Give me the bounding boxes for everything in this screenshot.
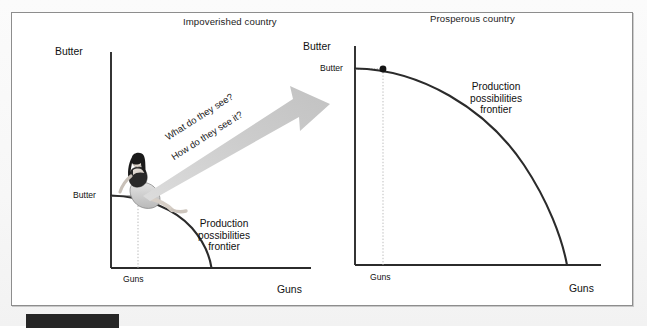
ppf-caption-line-3: frontier <box>198 241 250 253</box>
bottom-tab-strip <box>26 314 119 328</box>
x-axis-title-impoverished: Guns <box>277 284 302 295</box>
ppf-caption-line-3: frontier <box>470 104 522 116</box>
ppf-caption-prosperous: Production possibilities frontier <box>470 81 522 116</box>
x-value-label-prosperous: Guns <box>370 272 391 282</box>
ppf-caption-line-2: possibilities <box>198 230 250 242</box>
x-value-label-impoverished: Guns <box>123 274 144 284</box>
ppf-caption-line-1: Production <box>470 81 522 93</box>
y-axis-title-impoverished: Butter <box>55 46 83 57</box>
panel-title-prosperous: Prosperous country <box>430 13 515 24</box>
figure-frame <box>11 12 633 306</box>
x-axis-title-prosperous: Guns <box>569 283 594 294</box>
y-axis-title-prosperous: Butter <box>303 41 331 52</box>
panel-title-impoverished: Impoverished country <box>183 16 277 27</box>
ppf-caption-line-1: Production <box>198 218 250 230</box>
ppf-caption-line-2: possibilities <box>470 93 522 105</box>
y-value-label-prosperous: Butter <box>320 63 343 73</box>
y-value-label-impoverished: Butter <box>73 190 96 200</box>
ppf-caption-impoverished: Production possibilities frontier <box>198 218 250 253</box>
